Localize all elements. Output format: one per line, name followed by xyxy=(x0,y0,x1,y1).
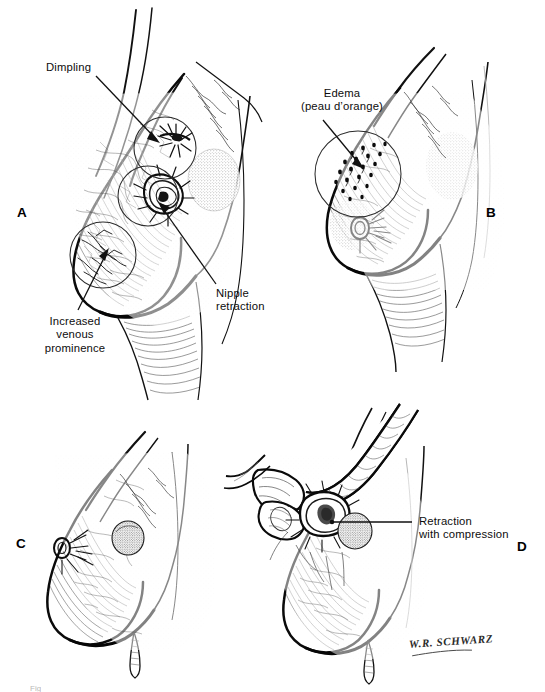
label-edema-line2: (peau d’orange) xyxy=(301,100,383,112)
label-nipple-retraction: Nippleretraction xyxy=(216,287,265,314)
label-edema: Edema(peau d’orange) xyxy=(280,87,404,114)
panel-c-artwork xyxy=(45,432,215,678)
label-retraction-line1: Retraction xyxy=(419,515,472,527)
panel-letter-a: A xyxy=(17,205,27,220)
tumor-mass-c xyxy=(112,521,144,555)
label-edema-line1: Edema xyxy=(324,87,361,99)
label-venous-prominence-line1: Increased xyxy=(50,315,101,327)
label-nipple-retraction-line1: Nipple xyxy=(216,287,249,299)
label-venous-prominence-line3: prominence xyxy=(45,342,106,354)
panel-letter-b: B xyxy=(486,205,496,220)
figure-caption-fragment: Fig xyxy=(30,684,41,692)
label-retraction-line2: with compression xyxy=(419,528,509,540)
label-retraction-with-compression: Retractionwith compression xyxy=(419,515,509,542)
tumor-mass-d xyxy=(338,513,372,549)
panel-letter-d: D xyxy=(517,539,527,554)
label-dimpling: Dimpling xyxy=(46,61,91,74)
label-venous-prominence-line2: venous xyxy=(56,328,93,340)
label-nipple-retraction-line2: retraction xyxy=(216,300,265,312)
label-venous-prominence: Increasedvenousprominence xyxy=(22,315,128,355)
figure-root: Dimpling Nippleretraction Increasedvenou… xyxy=(0,0,545,692)
panel-letter-c: C xyxy=(16,536,26,551)
